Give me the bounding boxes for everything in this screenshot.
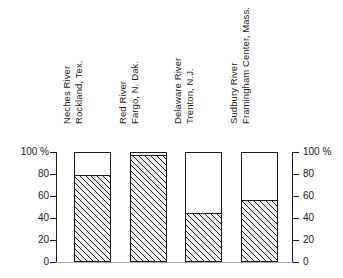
left-axis-label-20: 20 bbox=[38, 235, 49, 245]
right-axis-tick-20 bbox=[293, 240, 299, 241]
chart-baseline bbox=[56, 262, 293, 263]
right-axis-tick-100 bbox=[293, 152, 299, 153]
left-axis-tick-60 bbox=[50, 196, 56, 197]
category-label-line-2: Rockland, Tex. bbox=[73, 60, 85, 124]
category-label-line-2: Framingham Center, Mass. bbox=[240, 7, 252, 124]
left-axis-tick-40 bbox=[50, 218, 56, 219]
bar-fill-red-river bbox=[130, 155, 167, 262]
right-axis-tick-60 bbox=[293, 196, 299, 197]
category-label-sudbury-river: Sudbury River Framingham Center, Mass. bbox=[228, 7, 251, 124]
bar-fill-delaware-river bbox=[185, 213, 222, 263]
category-label-line-1: Delaware River bbox=[172, 58, 184, 124]
right-axis-label-0: 0 bbox=[303, 257, 309, 267]
right-axis-label-20: 20 bbox=[303, 235, 314, 245]
left-axis-label-100: 100 % bbox=[21, 147, 49, 157]
category-label-line-1: Red River bbox=[117, 61, 129, 124]
right-axis-tick-80 bbox=[293, 174, 299, 175]
right-axis-label-60: 60 bbox=[303, 191, 314, 201]
left-axis-label-80: 80 bbox=[38, 169, 49, 179]
category-label-neches-river: Neches River Rockland, Tex. bbox=[61, 60, 84, 124]
category-label-line-2: Fargo, N. Dak. bbox=[129, 61, 141, 124]
category-label-line-1: Sudbury River bbox=[228, 7, 240, 124]
bar-group-red-river[interactable] bbox=[130, 152, 167, 262]
plot-area bbox=[58, 152, 290, 262]
category-label-delaware-river: Delaware River Trenton, N.J. bbox=[172, 58, 195, 124]
stacked-bar-chart: 100 % 80 60 40 20 0 100 % 80 60 40 20 0 … bbox=[0, 0, 343, 278]
bar-fill-sudbury-river bbox=[241, 200, 278, 262]
left-axis-label-40: 40 bbox=[38, 213, 49, 223]
left-axis-tick-80 bbox=[50, 174, 56, 175]
left-axis-tick-0 bbox=[50, 262, 56, 263]
category-label-red-river: Red River Fargo, N. Dak. bbox=[117, 61, 140, 124]
bar-fill-neches-river bbox=[74, 175, 111, 262]
right-axis-label-40: 40 bbox=[303, 213, 314, 223]
category-label-line-2: Trenton, N.J. bbox=[184, 58, 196, 124]
left-axis-tick-100 bbox=[50, 152, 56, 153]
right-axis-label-100: 100 % bbox=[303, 147, 331, 157]
bar-group-sudbury-river[interactable] bbox=[241, 152, 278, 262]
category-label-line-1: Neches River bbox=[61, 60, 73, 124]
right-axis-spine bbox=[292, 152, 293, 262]
left-axis-label-60: 60 bbox=[38, 191, 49, 201]
left-axis-tick-20 bbox=[50, 240, 56, 241]
left-axis-spine bbox=[56, 152, 57, 262]
left-axis-label-0: 0 bbox=[43, 257, 49, 267]
right-axis-tick-40 bbox=[293, 218, 299, 219]
bar-group-neches-river[interactable] bbox=[74, 152, 111, 262]
right-axis-tick-0 bbox=[293, 262, 299, 263]
right-axis-label-80: 80 bbox=[303, 169, 314, 179]
bar-group-delaware-river[interactable] bbox=[185, 152, 222, 262]
